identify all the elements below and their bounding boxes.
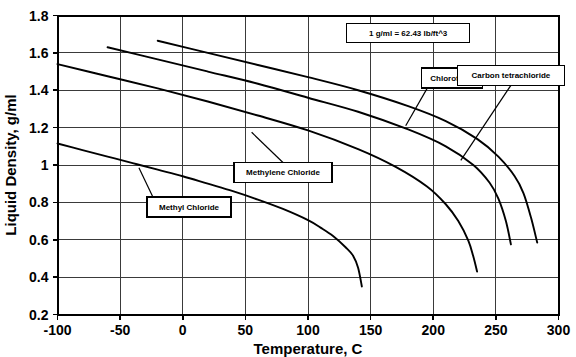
chart-canvas: Methyl ChlorideMethylene ChlorideChlorof… (0, 0, 576, 357)
liquid-density-chart: Methyl ChlorideMethylene ChlorideChlorof… (0, 0, 576, 357)
x-tick-label: 250 (484, 322, 508, 338)
y-tick-label: 0.8 (29, 194, 49, 210)
x-tick-label: 150 (359, 322, 383, 338)
y-tick-label: 0.4 (29, 269, 49, 285)
x-axis-title: Temperature, C (254, 340, 363, 357)
x-tick-label: -100 (43, 322, 71, 338)
annotation-text: 1 g/ml = 62.43 lb/ft^3 (369, 29, 448, 38)
y-tick-label: 1.6 (29, 45, 49, 61)
y-tick-label: 1.2 (29, 120, 49, 136)
callout-methyl-chloride: Methyl Chloride (147, 197, 231, 217)
y-tick-label: 1.4 (29, 82, 49, 98)
y-tick-label: 1 (41, 157, 49, 173)
callout-label: Methyl Chloride (159, 203, 220, 212)
callout-methylene-chloride: Methylene Chloride (234, 162, 332, 182)
y-axis-title: Liquid Density, g/ml (2, 94, 19, 235)
chart-annotations: 1 g/ml = 62.43 lb/ft^3 (347, 24, 470, 43)
x-tick-label: 300 (547, 322, 571, 338)
x-tick-label: 100 (296, 322, 320, 338)
annotation-conversion-note: 1 g/ml = 62.43 lb/ft^3 (347, 24, 470, 43)
callout-label: Carbon tetrachloride (472, 71, 551, 80)
x-tick-label: 0 (179, 322, 187, 338)
y-tick-label: 0.6 (29, 232, 49, 248)
x-tick-label: 200 (422, 322, 446, 338)
y-tick-label: 0.2 (29, 307, 49, 323)
callout-carbon-tetrachloride: Carbon tetrachloride (457, 65, 564, 85)
x-tick-label: -50 (110, 322, 130, 338)
x-tick-label: 50 (238, 322, 254, 338)
callout-label: Methylene Chloride (246, 168, 320, 177)
y-tick-label: 1.8 (29, 8, 49, 24)
